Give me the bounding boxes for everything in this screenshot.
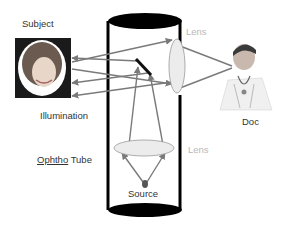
doc-photo (220, 44, 272, 110)
mirror (136, 59, 151, 75)
lens-bottom (114, 140, 174, 156)
subject-label: Subject (22, 18, 54, 29)
tube-word: Tube (71, 154, 92, 165)
lens-top (169, 39, 185, 93)
lens-top-label: Lens (186, 26, 207, 37)
light-source-bulb (142, 180, 148, 188)
ophtho-word: Ophtho (37, 154, 68, 165)
light-rays (72, 40, 232, 182)
doc-label: Doc (242, 116, 259, 127)
subject-photo (15, 38, 71, 98)
ophtho-tube-label: Ophtho Tube (37, 154, 92, 165)
lens-bottom-label: Lens (188, 144, 209, 155)
illumination-label: Illumination (40, 110, 88, 121)
source-label: Source (128, 188, 158, 199)
